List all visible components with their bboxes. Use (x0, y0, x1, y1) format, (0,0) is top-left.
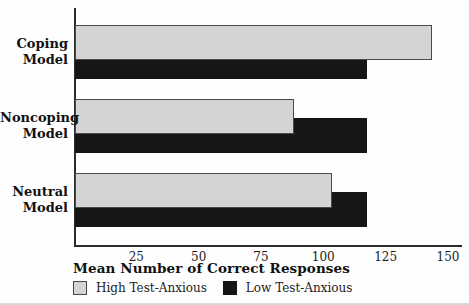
bar-chart-figure: Mean Number of Correct Responses High Te… (0, 0, 469, 305)
x-tick-label-125: 125 (364, 250, 408, 264)
legend-swatch-high-test-anxious (73, 281, 87, 295)
bar-noncoping-model-high-test-anxious (75, 99, 294, 134)
bar-neutral-model-high-test-anxious (75, 173, 332, 208)
category-label-neutral-model: Neutral Model (0, 184, 68, 216)
x-tick-label-100: 100 (301, 250, 345, 264)
x-tick-label-150: 150 (426, 250, 469, 264)
category-label-coping-model: Coping Model (0, 36, 68, 68)
legend-label-low-test-anxious: Low Test-Anxious (246, 281, 353, 295)
legend-swatch-low-test-anxious (223, 281, 237, 295)
bar-coping-model-high-test-anxious (75, 25, 432, 60)
x-tick-label-50: 50 (177, 250, 221, 264)
x-tick-label-75: 75 (239, 250, 283, 264)
category-label-noncoping-model: Noncoping Model (0, 110, 68, 142)
legend-label-high-test-anxious: High Test-Anxious (96, 281, 207, 295)
x-tick-label-25: 25 (114, 250, 158, 264)
legend: High Test-Anxious Low Test-Anxious (73, 281, 352, 295)
